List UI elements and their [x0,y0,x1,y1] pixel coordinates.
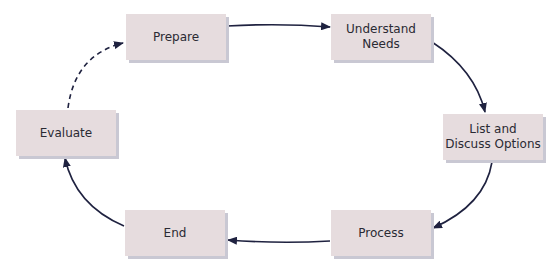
node-list-discuss-options: List and Discuss Options [443,114,543,160]
node-label: Discuss Options [445,137,541,152]
edge-end-to-evaluate [65,158,124,226]
edge-evaluate-to-prepare-dashed [68,43,123,108]
edge-prepare-to-understand-needs [227,25,330,27]
node-label: Needs [346,37,416,52]
edge-understand-needs-to-list-options [432,42,485,112]
node-label: Understand [346,22,416,37]
node-label: List and [445,122,541,137]
node-label: Evaluate [40,126,92,141]
node-understand-needs: Understand Needs [331,14,431,60]
edge-process-to-end [228,240,330,242]
node-prepare: Prepare [126,14,226,60]
node-process: Process [331,210,431,256]
node-end: End [125,210,225,256]
cycle-diagram: Prepare Understand Needs List and Discus… [0,0,557,272]
node-label: Prepare [153,30,199,45]
edge-list-options-to-process [433,162,492,228]
node-label: Process [358,226,404,241]
node-label: End [164,226,187,241]
node-evaluate: Evaluate [16,110,116,156]
